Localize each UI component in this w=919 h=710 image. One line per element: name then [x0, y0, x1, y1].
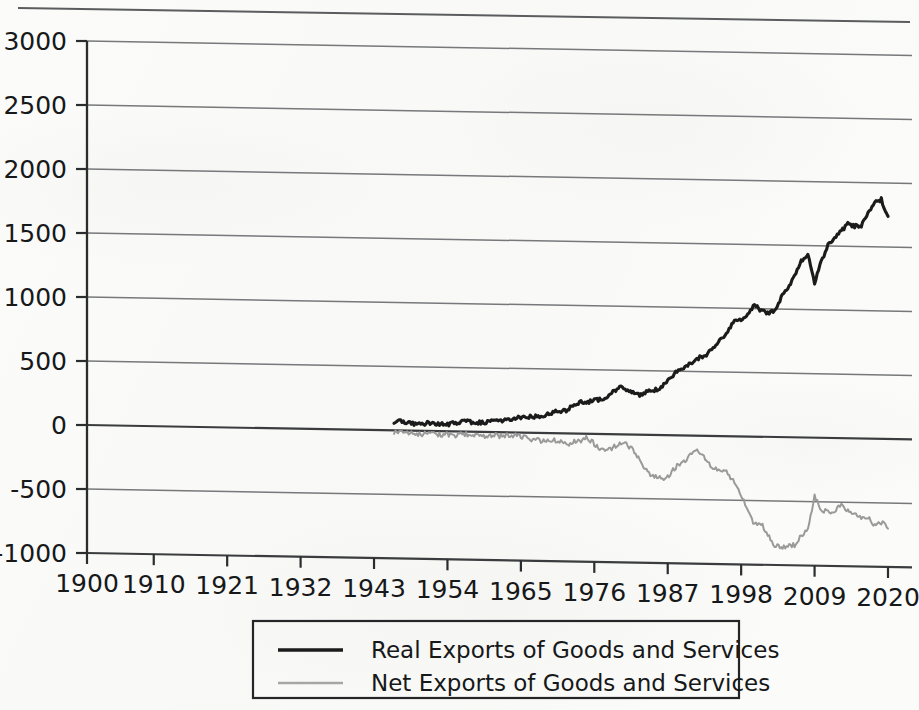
x-tick-label-1900: 1900 [55, 569, 119, 598]
x-tick-label-1976: 1976 [562, 578, 626, 607]
gridline-1000 [87, 297, 912, 311]
x-tick-label-1943: 1943 [342, 574, 406, 603]
y-axis-labels-group: 300025002000150010005000-500-1000 [0, 27, 67, 568]
gridline-2500 [87, 105, 912, 119]
gridlines-group [87, 41, 912, 567]
gridline--500 [87, 489, 912, 503]
y-tick-label-1500: 1500 [3, 219, 67, 248]
page-edge-artifact-line [18, 8, 910, 22]
y-tick-label--1000: -1000 [0, 539, 67, 568]
y-tick-label-500: 500 [19, 347, 67, 376]
y-tick-label-2500: 2500 [3, 91, 67, 120]
x-tick-label-1932: 1932 [269, 573, 333, 602]
gridline-2000 [87, 169, 912, 183]
chart-figure: 300025002000150010005000-500-1000 190019… [0, 0, 919, 710]
gridline--1000 [87, 553, 912, 567]
series-line-net-exports [394, 431, 888, 549]
gridline-1500 [87, 233, 912, 247]
x-tick-label-1987: 1987 [636, 579, 700, 608]
x-tick-label-2009: 2009 [783, 582, 847, 611]
series-line-real-exports [394, 198, 888, 426]
legend-label-real-exports: Real Exports of Goods and Services [371, 637, 779, 663]
chart-legend: Real Exports of Goods and Services Net E… [253, 621, 779, 698]
y-tick-label-0: 0 [51, 411, 67, 440]
line-chart: 300025002000150010005000-500-1000 190019… [0, 0, 919, 710]
y-tick-label-1000: 1000 [3, 283, 67, 312]
legend-label-net-exports: Net Exports of Goods and Services [371, 670, 770, 696]
x-tick-label-1921: 1921 [195, 571, 259, 600]
y-axis-tick-group [76, 41, 87, 553]
x-tick-label-2020: 2020 [856, 583, 919, 612]
y-tick-label--500: -500 [10, 475, 67, 504]
y-tick-label-3000: 3000 [3, 27, 67, 56]
x-tick-label-1965: 1965 [489, 577, 553, 606]
y-tick-label-2000: 2000 [3, 155, 67, 184]
x-axis-labels-group: 1900191019211932194319541965197619871998… [55, 569, 919, 612]
gridline-3000 [87, 41, 912, 55]
x-tick-label-1910: 1910 [122, 570, 186, 599]
gridline-500 [87, 361, 912, 375]
x-tick-label-1954: 1954 [416, 575, 480, 604]
x-tick-label-1998: 1998 [709, 580, 773, 609]
